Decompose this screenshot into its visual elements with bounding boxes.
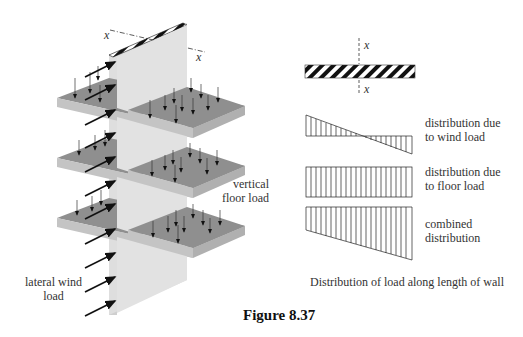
lateral-wind-load-label: lateral wind load [25, 275, 82, 303]
label-line: to floor load [425, 179, 501, 193]
distribution-caption: Distribution of load along length of wal… [310, 275, 504, 290]
label-line: distribution due [425, 116, 501, 130]
label-line: vertical [222, 177, 269, 191]
label-line: distribution [425, 231, 480, 245]
section-axis-label-top: x [364, 38, 369, 53]
wind-distribution [306, 115, 412, 154]
label-line: distribution due [425, 165, 501, 179]
section-axis-label-bottom: x [364, 82, 369, 97]
floor-distribution-label: distribution due to floor load [425, 165, 501, 193]
label-line: lateral wind [25, 275, 82, 289]
vertical-floor-load-label: vertical floor load [222, 177, 269, 205]
floor-distribution [306, 167, 412, 197]
axis-label-x-right: x [196, 50, 201, 65]
axis-label-x-left: x [104, 28, 109, 43]
combined-distribution-label: combined distribution [425, 217, 480, 245]
label-line: to wind load [425, 130, 501, 144]
label-line: load [25, 289, 82, 303]
wind-distribution-label: distribution due to wind load [425, 116, 501, 144]
wall-section [305, 38, 415, 94]
label-line: combined [425, 217, 480, 231]
combined-distribution [306, 207, 412, 260]
figure-title: Figure 8.37 [243, 307, 315, 324]
label-line: floor load [222, 191, 269, 205]
